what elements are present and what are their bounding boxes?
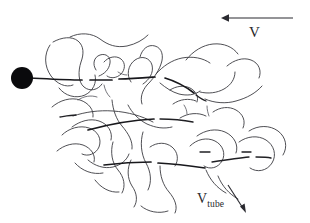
mesh-chain-segment	[53, 38, 102, 90]
velocity-label: V	[249, 24, 260, 41]
mesh-chain-segment	[141, 206, 168, 212]
tube-segment	[158, 163, 205, 168]
mesh-chain-segment	[75, 163, 103, 174]
mesh-chain-segment	[112, 142, 124, 193]
mesh-chain-segment	[128, 58, 152, 84]
mesh-chain-segment	[62, 127, 100, 155]
mesh-chain-segment	[128, 105, 172, 128]
mesh-chain-segment	[190, 139, 224, 168]
mesh-chain-segment	[72, 120, 111, 140]
mesh-chain-segment	[239, 137, 274, 171]
mesh-chain-segment	[200, 72, 235, 93]
mesh-chain-segment	[227, 59, 260, 78]
mesh-chain-segment	[95, 180, 119, 192]
velocity-arrow-head	[221, 14, 229, 22]
tube-segment	[104, 162, 151, 165]
tube-segment	[165, 78, 194, 93]
figure-canvas: V Vtube	[0, 0, 310, 223]
reptation-diagram-svg	[0, 0, 310, 223]
mesh-chain-segment	[197, 130, 237, 153]
mesh-chain-segment	[206, 170, 226, 193]
mesh-chain-group	[46, 34, 286, 213]
mesh-chain-segment	[184, 105, 187, 114]
tube-velocity-arrow	[228, 185, 246, 213]
tube-velocity-label-subscript: tube	[207, 199, 224, 209]
tube-velocity-label: Vtube	[197, 191, 224, 209]
mesh-chain-segment	[213, 108, 244, 128]
mesh-chain-segment	[160, 166, 176, 213]
mesh-chain-segment	[128, 160, 136, 207]
tube-segment	[30, 78, 82, 80]
tube-segment	[119, 77, 155, 79]
tagged-chain-bead	[11, 67, 33, 89]
tube-path-group	[30, 77, 271, 168]
velocity-arrow	[221, 14, 293, 22]
tube-segment	[212, 157, 249, 162]
tube-velocity-arrow-shaft	[228, 185, 244, 209]
mesh-chain-segment	[104, 85, 110, 97]
mesh-chain-segment	[205, 86, 262, 103]
mesh-chain-segment	[52, 99, 93, 117]
mesh-chain-segment	[141, 132, 150, 190]
mesh-chain-segment	[57, 144, 94, 162]
mesh-chain-segment	[94, 54, 110, 76]
mesh-chain-segment	[180, 114, 206, 118]
tube-segment	[160, 119, 193, 122]
mesh-chain-segment	[156, 57, 210, 74]
mesh-chain-segment	[207, 106, 209, 116]
tube-velocity-label-base: V	[197, 191, 207, 206]
tube-segment	[256, 157, 271, 158]
mesh-chain-segment	[173, 99, 196, 104]
mesh-chain-segment	[104, 57, 124, 78]
